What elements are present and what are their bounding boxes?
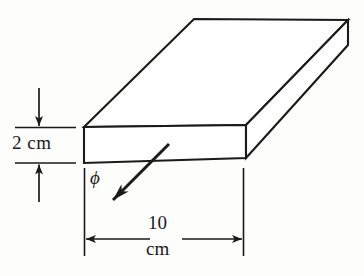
thickness-dimension-label: 2 cm (12, 132, 51, 154)
figure-container: 2 cm 10 cm ϕ (0, 0, 364, 276)
slab-front-face (84, 125, 246, 163)
length-dimension-value-label: 10 (148, 212, 167, 234)
rectangular-slab (84, 19, 348, 163)
length-dimension-unit-label: cm (146, 238, 169, 260)
phi-symbol-label: ϕ (90, 167, 100, 189)
diagram-canvas (0, 0, 364, 276)
